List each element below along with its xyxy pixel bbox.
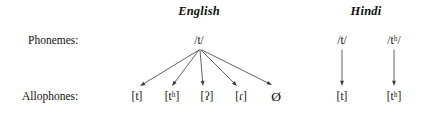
- node-hindi-phoneme-t: /t/: [337, 34, 347, 46]
- node-english-allophone-aspirated-t: [tʰ]: [165, 90, 180, 102]
- arrow-hin-th-to-th: [392, 50, 396, 86]
- node-hindi-allophone-aspirated-t: [tʰ]: [387, 90, 402, 102]
- row-label-allophones: Allophones:: [22, 90, 78, 102]
- node-hindi-phoneme-aspirated-t: /tʰ/: [387, 34, 400, 46]
- row-label-phonemes: Phonemes:: [28, 34, 78, 46]
- node-english-allophone-null: Ø: [271, 89, 281, 105]
- arrow-eng-t-to-th: [172, 50, 199, 86]
- arrow-eng-t-to-glottal: [200, 50, 204, 86]
- language-header-english: English: [178, 4, 220, 19]
- node-english-allophone-t: [t]: [132, 90, 143, 102]
- arrow-eng-t-to-null: [202, 50, 272, 85]
- arrow-hin-t-to-t: [340, 50, 344, 86]
- node-hindi-allophone-t: [t]: [337, 90, 348, 102]
- arrow-eng-t-to-t: [140, 50, 199, 86]
- node-english-allophone-flap: [ɾ]: [235, 90, 247, 102]
- node-english-phoneme-t: /t/: [194, 34, 204, 46]
- language-header-hindi: Hindi: [351, 4, 382, 19]
- phoneme-allophone-diagram: English Hindi Phonemes: Allophones: /t/ …: [0, 0, 430, 122]
- arrow-eng-t-to-flap: [201, 50, 237, 86]
- node-english-allophone-glottal-stop: [ʔ]: [201, 90, 214, 102]
